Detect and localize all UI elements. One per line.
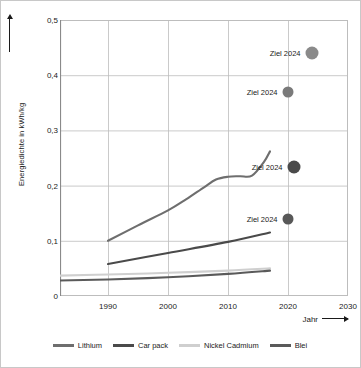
annotation-marker-dot	[283, 86, 294, 97]
annotation-label: Ziel 2024	[247, 214, 282, 223]
y-tick-label: 0,4	[24, 71, 58, 80]
annotation-label: Ziel 2024	[247, 87, 282, 96]
legend-swatch-line-icon	[179, 344, 200, 346]
x-axis-title: Jahr	[302, 315, 318, 324]
series-line-lithium	[108, 151, 270, 240]
legend-label: Car pack	[138, 341, 168, 350]
legend-label: Blei	[295, 341, 308, 350]
plot-frame	[61, 21, 348, 296]
x-tick-label: 2030	[339, 302, 357, 311]
annotation-label: Ziel 2024	[270, 49, 305, 58]
annotation-label: Ziel 2024	[252, 163, 287, 172]
y-tick-label: 0,2	[24, 181, 58, 190]
y-tick-label: 0,5	[24, 16, 58, 25]
legend-item[interactable]: Blei	[270, 341, 308, 350]
y-tick-label: 0,3	[24, 126, 58, 135]
series-line-nickel-cadmium	[60, 268, 270, 275]
y-tick-label: 0,1	[24, 236, 58, 245]
y-axis-title-group: Energiedichte in kWh/kg	[0, 0, 22, 300]
legend-item[interactable]: Lithium	[53, 341, 102, 350]
legend-swatch-line-icon	[113, 344, 134, 346]
x-axis-arrow-icon	[322, 318, 348, 319]
annotation-marker-dot	[288, 161, 301, 174]
annotation-marker-dot	[283, 213, 294, 224]
x-tick-label: 2020	[279, 302, 297, 311]
legend-item[interactable]: Nickel Cadmium	[179, 341, 259, 350]
legend-label: Lithium	[78, 341, 102, 350]
legend-swatch-line-icon	[53, 344, 74, 346]
annotation-marker-dot	[306, 47, 319, 60]
y-tick-label: 0	[24, 292, 58, 301]
x-axis-title-group: Jahr	[302, 315, 348, 324]
x-tick-label: 1990	[99, 302, 117, 311]
y-axis-tick-labels: 00,10,20,30,40,5	[22, 0, 58, 367]
x-tick-label: 2010	[219, 302, 237, 311]
legend-item[interactable]: Car pack	[113, 341, 168, 350]
plot-area	[60, 20, 348, 296]
legend-label: Nickel Cadmium	[204, 341, 259, 350]
legend-swatch-line-icon	[270, 344, 291, 346]
chart-legend: LithiumCar packNickel CadmiumBlei	[0, 341, 360, 350]
series-line-car-pack	[108, 233, 270, 264]
plot-svg	[60, 20, 348, 296]
y-axis-arrow-icon	[9, 18, 10, 52]
x-tick-label: 2000	[159, 302, 177, 311]
